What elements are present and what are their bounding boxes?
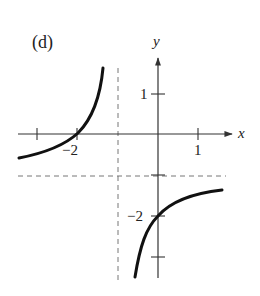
y-axis-label: y xyxy=(151,33,160,49)
left-branch-curve xyxy=(19,68,103,158)
x-axis-label: x xyxy=(237,125,245,141)
right-branch-curve xyxy=(135,190,222,277)
y-tick-label-1: 1 xyxy=(140,86,148,102)
y-tick-label-neg2: −2 xyxy=(127,208,143,224)
x-tick-label-1: 1 xyxy=(194,142,202,158)
graph: (d) y x −2 1 1 −2 xyxy=(0,0,260,296)
x-tick-label-neg2: −2 xyxy=(62,142,78,158)
panel-label: (d) xyxy=(32,32,53,53)
